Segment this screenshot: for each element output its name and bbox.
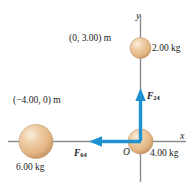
coordinate-label-6kg: (−4.00, 0) m bbox=[13, 96, 61, 106]
sphere-2kg bbox=[130, 38, 151, 59]
x-axis-label: x bbox=[180, 131, 184, 141]
mass-label-6kg: 6.00 kg bbox=[16, 163, 45, 173]
force-label-64: F64 bbox=[74, 149, 87, 159]
origin-label: O bbox=[123, 148, 130, 158]
force-64-subscript: 64 bbox=[80, 151, 87, 158]
sphere-6kg bbox=[19, 125, 53, 159]
mass-label-4kg: 4.00 kg bbox=[150, 149, 179, 159]
force-label-24: F24 bbox=[147, 92, 160, 102]
coordinate-label-2kg: (0, 3.00) m bbox=[69, 34, 111, 44]
mass-label-2kg: 2.00 kg bbox=[152, 44, 181, 54]
physics-force-diagram: (0, 3.00) m (−4.00, 0) m 2.00 kg 4.00 kg… bbox=[0, 0, 194, 190]
force-64-arrowhead bbox=[89, 136, 102, 146]
force-24-subscript: 24 bbox=[153, 94, 160, 101]
y-axis-label: y bbox=[136, 11, 140, 21]
force-24-arrowhead bbox=[135, 88, 145, 101]
